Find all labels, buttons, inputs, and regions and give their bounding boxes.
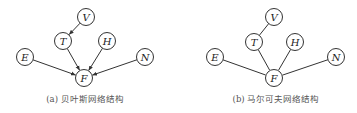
edge-n-f xyxy=(93,60,137,75)
node-label: N xyxy=(140,52,151,63)
edge-v-t xyxy=(69,23,80,34)
node-h: H xyxy=(99,33,116,50)
node-n: N xyxy=(328,49,345,66)
edge-h-f xyxy=(89,48,103,70)
node-n: N xyxy=(137,49,154,66)
edge-n-f xyxy=(283,60,328,75)
node-f: F xyxy=(76,70,93,87)
markov-network-graph: VTHENF xyxy=(207,9,345,87)
node-label: F xyxy=(80,73,89,84)
node-t: T xyxy=(246,34,263,51)
edge-t-f xyxy=(67,48,79,70)
bayesian-network-graph: VTHENF xyxy=(17,9,154,87)
node-t: T xyxy=(55,33,72,50)
caption-bayesian-network: (a) 贝叶斯网络结构 xyxy=(46,92,123,104)
node-label: H xyxy=(290,37,300,48)
edge-h-f xyxy=(279,49,291,70)
node-label: E xyxy=(20,52,29,63)
caption-markov-network: (b) 马尔可夫网络结构 xyxy=(233,92,320,104)
edge-e-f xyxy=(33,60,76,75)
node-h: H xyxy=(287,34,304,51)
node-v: V xyxy=(266,9,283,26)
node-e: E xyxy=(17,49,34,66)
node-label: E xyxy=(210,52,219,63)
edge-v-t xyxy=(260,24,269,35)
edge-e-f xyxy=(223,60,266,75)
node-f: F xyxy=(266,70,283,87)
node-label: N xyxy=(331,52,342,63)
node-e: E xyxy=(207,49,224,66)
node-label: F xyxy=(270,73,279,84)
node-v: V xyxy=(78,9,95,26)
node-label: H xyxy=(102,36,112,47)
edge-t-f xyxy=(258,49,270,70)
